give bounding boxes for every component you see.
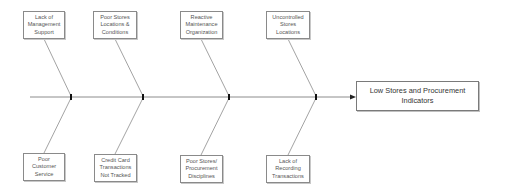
- cause-label: Lack of Management Support: [26, 14, 62, 37]
- bone-top-1: [44, 39, 71, 96]
- cause-label: Credit Card Transactions Not Tracked: [97, 157, 134, 180]
- joint-marker-3: [228, 94, 230, 100]
- joint-marker-2: [142, 94, 144, 100]
- cause-box-top-1: Lack of Management Support: [23, 11, 65, 39]
- cause-box-bottom-2: Credit Card Transactions Not Tracked: [94, 154, 137, 182]
- cause-box-bottom-4: Lack of Recording Transactions: [266, 155, 310, 183]
- joint-marker-1: [70, 94, 72, 100]
- joint-marker-4: [315, 94, 317, 100]
- cause-box-top-3: Reactive Maintenance Organization: [180, 11, 223, 39]
- effect-box: Low Stores and Procurement Indicators: [356, 81, 479, 111]
- cause-box-top-4: Uncontrolled Stores Locations: [266, 11, 310, 39]
- effect-label: Low Stores and Procurement Indicators: [363, 86, 472, 106]
- bone-bottom-2: [115, 98, 143, 154]
- bone-bottom-1: [44, 98, 71, 153]
- cause-box-bottom-1: Poor Customer Service: [23, 153, 65, 181]
- bone-top-2: [115, 39, 143, 96]
- bone-bottom-4: [288, 98, 316, 155]
- bone-top-3: [201, 39, 229, 96]
- cause-label: Uncontrolled Stores Locations: [269, 14, 307, 37]
- bone-bottom-3: [201, 98, 229, 155]
- cause-box-top-2: Poor Stores Locations & Conditions: [93, 11, 137, 39]
- cause-label: Reactive Maintenance Organization: [183, 14, 220, 37]
- cause-label: Poor Customer Service: [26, 156, 62, 179]
- cause-label: Lack of Recording Transactions: [269, 158, 307, 181]
- cause-label: Poor Stores Locations & Conditions: [96, 14, 134, 37]
- cause-box-bottom-3: Poor Stores/ Procurement Disciplines: [180, 155, 223, 183]
- bone-top-4: [288, 39, 316, 96]
- cause-label: Poor Stores/ Procurement Disciplines: [183, 158, 220, 181]
